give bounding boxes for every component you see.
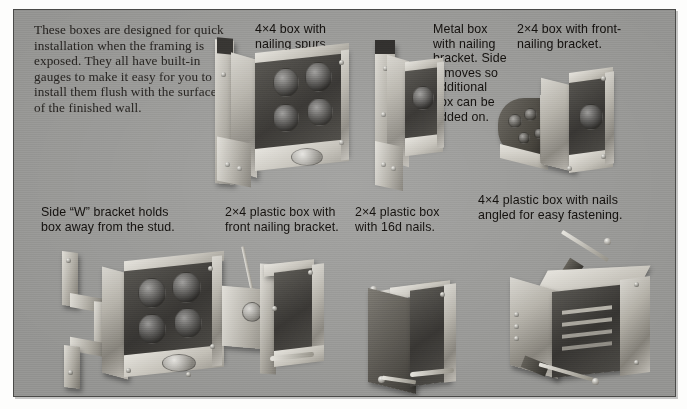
object-2x4-plastic-box-front-bracket (222, 240, 342, 390)
object-4x4-box-side-w-bracket (62, 248, 222, 390)
photo-plate: These boxes are designed for quick insta… (13, 9, 676, 397)
caption-side-w-bracket: Side “W” bracket holds box away from the… (41, 205, 231, 234)
intro-paragraph: These boxes are designed for quick insta… (34, 22, 226, 116)
caption-2x4-plastic-front-bracket: 2×4 plastic box with front nailing brack… (225, 205, 375, 234)
object-4x4-metal-box-with-spurs (211, 36, 351, 188)
page-root: These boxes are designed for quick insta… (0, 0, 687, 409)
object-4x4-plastic-box-angled-nails (508, 232, 668, 392)
object-2x4-metal-box-with-bracket (357, 40, 447, 192)
caption-4x4-plastic-angled-nails: 4×4 plastic box with nails angled for ea… (478, 193, 670, 222)
object-2x4-box-front-nailing-bracket (541, 70, 641, 182)
caption-2x4-front-nailing-bracket: 2×4 box with front- nailing bracket. (517, 22, 649, 51)
object-2x4-plastic-box-16d-nails (366, 258, 486, 397)
caption-2x4-plastic-16d-nails: 2×4 plastic box with 16d nails. (355, 205, 485, 234)
